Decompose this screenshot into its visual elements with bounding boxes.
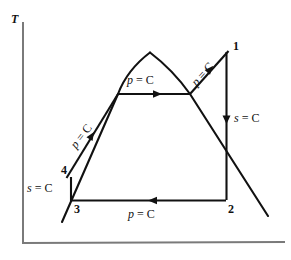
process-label-s-const-pump: s = C [27, 182, 52, 194]
arrowhead-boiler [153, 90, 162, 97]
ts-diagram-figure: T 1 2 3 4 p = C p = C p = C p = C s = C … [0, 0, 291, 260]
process-label-rest: = C [32, 181, 53, 195]
process-label-rest: = C [239, 111, 260, 125]
process-label-rest: = C [134, 207, 155, 221]
process-label-p-const-condenser: p = C [128, 208, 155, 220]
y-axis-label: T [11, 13, 18, 25]
arrowhead-condenser [148, 197, 157, 204]
ts-diagram-canvas [0, 0, 291, 260]
process-label-s-const-turbine: s = C [234, 112, 259, 124]
state-point-label-2: 2 [228, 203, 234, 215]
state-point-label-3: 3 [74, 203, 80, 215]
arrowhead-turbine [223, 116, 231, 125]
state-point-label-1: 1 [233, 40, 239, 52]
process-label-p-const-boiler: p = C [127, 74, 154, 86]
state-point-label-4: 4 [61, 164, 67, 176]
process-label-rest: = C [133, 73, 154, 87]
